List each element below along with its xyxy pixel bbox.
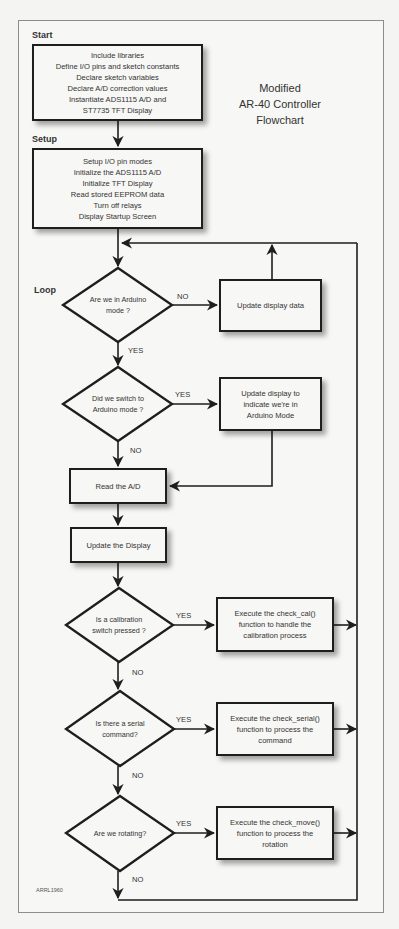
box-line: Execute the check_move(): [230, 817, 320, 828]
edge-label-d5-no: NO: [132, 875, 143, 884]
box-line: Execute the check_cal(): [234, 608, 315, 619]
edge-label-d3-yes: YES: [176, 611, 191, 620]
box-line: Define I/O pins and sketch constants: [56, 61, 180, 72]
box-line: command: [258, 735, 291, 746]
flow-connectors: [0, 0, 399, 929]
box-line: Display Startup Screen: [79, 211, 157, 222]
decision-line: Did we switch to: [92, 393, 144, 404]
box-line: ST7735 TFT Display: [83, 105, 152, 116]
start-box: Include libraries Define I/O pins and sk…: [32, 44, 203, 121]
setup-box: Setup I/O pin modes Initialize the ADS11…: [32, 148, 203, 229]
box-line: Instantiate ADS1115 A/D and: [69, 94, 166, 105]
box-line: Initialize TFT Display: [82, 178, 152, 189]
box-line: indicate we're in: [243, 399, 297, 410]
decision-line: command?: [95, 729, 144, 740]
check-move-box: Execute the check_move() function to pro…: [216, 806, 334, 860]
section-label-start: Start: [32, 30, 53, 40]
check-serial-box: Execute the check_serial() function to p…: [216, 702, 334, 756]
decision-line: mode ?: [90, 305, 146, 316]
edge-label-d1-yes: YES: [128, 346, 143, 355]
update-display-arduino-box: Update display to indicate we're in Ardu…: [219, 377, 322, 431]
title-line: AR-40 Controller: [215, 96, 345, 112]
box-line: Declare A/D correction values: [67, 83, 167, 94]
read-ad-box: Read the A/D: [69, 468, 167, 504]
decision-text-arduino-mode: Are we in Arduino mode ?: [90, 294, 146, 316]
decision-text-calibration: Is a calibration switch pressed ?: [92, 614, 146, 636]
section-label-setup: Setup: [32, 134, 57, 144]
box-line: function to process the: [237, 724, 313, 735]
edge-label-d2-yes: YES: [175, 390, 190, 399]
edge-label-d2-no: NO: [130, 446, 141, 455]
edge-label-d4-yes: YES: [176, 715, 191, 724]
box-line: Update display data: [237, 300, 304, 311]
box-line: Declare sketch variables: [76, 72, 159, 83]
box-line: function to process the: [237, 828, 313, 839]
section-label-loop: Loop: [34, 285, 56, 295]
figure-credit: ARRL1960: [36, 887, 63, 893]
decision-text-rotating: Are we rotating?: [94, 828, 146, 839]
edge-label-d3-no: NO: [132, 668, 143, 677]
box-line: calibration process: [243, 630, 306, 641]
check-cal-box: Execute the check_cal() function to hand…: [216, 597, 334, 652]
box-line: Read stored EEPROM data: [71, 189, 164, 200]
decision-line: Are we rotating?: [94, 828, 146, 839]
box-line: Update display to: [241, 388, 300, 399]
flowchart-title: Modified AR-40 Controller Flowchart: [215, 80, 345, 128]
update-the-display-box: Update the Display: [70, 527, 167, 563]
title-line: Flowchart: [215, 112, 345, 128]
title-line: Modified: [215, 80, 345, 96]
box-line: Include libraries: [91, 50, 144, 61]
box-line: Update the Display: [86, 540, 150, 551]
edge-label-d1-no: NO: [177, 292, 188, 301]
box-line: rotation: [262, 839, 287, 850]
box-line: function to handle the: [239, 619, 312, 630]
decision-text-serial: Is there a serial command?: [95, 718, 144, 740]
box-line: Turn off relays: [93, 200, 141, 211]
edge-label-d4-no: NO: [132, 771, 143, 780]
decision-line: Are we in Arduino: [90, 294, 146, 305]
decision-line: Is a calibration: [92, 614, 146, 625]
box-line: Arduino Mode: [247, 410, 294, 421]
box-line: Setup I/O pin modes: [83, 156, 152, 167]
box-line: Execute the check_serial(): [230, 713, 319, 724]
box-line: Read the A/D: [95, 481, 140, 492]
update-display-data-box: Update display data: [219, 279, 322, 332]
decision-line: Arduino mode ?: [92, 404, 144, 415]
decision-line: Is there a serial: [95, 718, 144, 729]
box-line: Initialize the ADS1115 A/D: [74, 167, 162, 178]
decision-text-switch-arduino: Did we switch to Arduino mode ?: [92, 393, 144, 415]
decision-line: switch pressed ?: [92, 625, 146, 636]
edge-label-d5-yes: YES: [176, 819, 191, 828]
